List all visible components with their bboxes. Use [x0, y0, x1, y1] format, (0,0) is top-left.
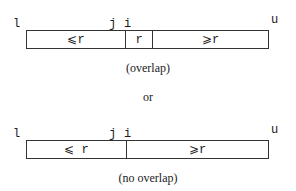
label-l: l [13, 18, 20, 30]
label-u: u [271, 14, 278, 26]
cell-greater-equal-r: ⩾r [126, 141, 268, 158]
array-box: ⩽r r ⩾r [26, 30, 269, 49]
cell-less-equal-r: ⩽ r [27, 141, 126, 158]
label-j: j [109, 128, 116, 140]
cell-greater-equal-r: ⩾r [152, 31, 268, 48]
label-i: i [124, 18, 131, 30]
separator-or: or [0, 91, 296, 104]
caption-overlap: (overlap) [0, 62, 296, 75]
cell-less-equal-r: ⩽r [27, 31, 125, 48]
caption-no-overlap: (no overlap) [0, 172, 296, 185]
label-l: l [13, 128, 20, 140]
array-box: ⩽ r ⩾r [26, 140, 269, 159]
label-u: u [271, 124, 278, 136]
label-i: i [124, 128, 131, 140]
label-j: j [109, 18, 116, 30]
cell-equal-r: r [125, 31, 152, 48]
